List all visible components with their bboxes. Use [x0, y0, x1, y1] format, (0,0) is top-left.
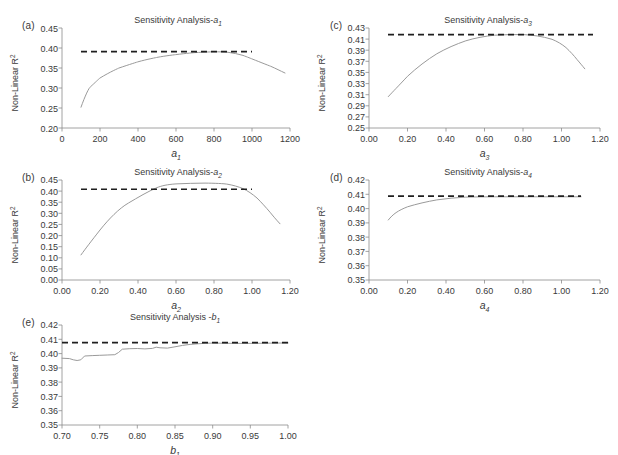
panel-c-x-tick-labels: 0.00 0.20 0.40 0.60 0.80 1.00 1.20	[360, 134, 609, 144]
y-tick-label: 0.36	[347, 261, 365, 271]
y-tick-label: 0.20	[40, 231, 58, 241]
y-tick-label: 0.41	[40, 335, 58, 345]
panel-d-ylabel: Non-Linear R2	[316, 206, 328, 264]
panel-c-series-curve	[388, 35, 585, 97]
y-tick-label: 0.41	[347, 35, 365, 45]
panel-d-chart: Sensitivity Analysis-a4 Non-Linear R2 0.…	[308, 160, 618, 310]
panel-b-series-curve	[81, 183, 280, 255]
y-tick-label: 0.25	[40, 104, 58, 114]
x-tick-label: 1.00	[279, 431, 297, 441]
y-tick-label: 0.31	[347, 90, 365, 100]
x-tick-label: 1.20	[281, 286, 299, 296]
y-tick-label: 0.10	[40, 253, 58, 263]
x-tick-label: 1.20	[591, 286, 609, 296]
y-tick-label: 0.20	[40, 124, 58, 134]
x-tick-label: 0.00	[53, 286, 71, 296]
y-tick-label: 0.30	[40, 209, 58, 219]
panel-b-x-tick-labels: 0.00 0.20 0.40 0.60 0.80 1.00 1.20	[53, 286, 299, 296]
panel-b: (b) Sensitivity Analysis-a2 Non-Linear R…	[0, 160, 310, 310]
y-tick-label: 0.45	[40, 24, 58, 34]
y-tick-label: 0.42	[40, 320, 58, 330]
y-tick-label: 0.37	[347, 57, 365, 67]
x-tick-label: 1.00	[243, 286, 261, 296]
panel-b-tag: (b)	[22, 172, 35, 183]
panel-e-y-tick-labels: 0.35 0.36 0.37 0.38 0.39 0.40 0.41 0.42	[40, 320, 58, 430]
panel-b-axes	[59, 180, 291, 284]
panel-c-y-tick-labels: 0.25 0.27 0.29 0.31 0.33 0.35 0.37 0.39 …	[347, 23, 365, 133]
panel-e-series-curve	[62, 343, 288, 361]
x-tick-label: 0.20	[399, 134, 417, 144]
panel-c-ylabel: Non-Linear R2	[316, 54, 328, 112]
x-tick-label: 400	[130, 134, 145, 144]
y-tick-label: 0.05	[40, 264, 58, 274]
x-tick-label: 0.20	[399, 286, 417, 296]
panel-c-chart: Sensitivity Analysis-a3 Non-Linear R2 0.…	[308, 8, 618, 158]
y-tick-label: 0.39	[347, 218, 365, 228]
y-tick-label: 0.30	[40, 84, 58, 94]
panel-c-title: Sensitivity Analysis-a3	[444, 15, 532, 27]
x-tick-label: 1.00	[553, 134, 571, 144]
panel-e-chart: Sensitivity Analysis -b1 Non-Linear R2 0…	[0, 305, 330, 455]
panel-d-tag: (d)	[330, 172, 343, 183]
panel-c-tag: (c)	[330, 20, 342, 31]
panel-a-ylabel-main: Non-Linear R	[10, 58, 20, 112]
x-tick-label: 0.70	[53, 431, 71, 441]
panel-a-axes	[59, 28, 291, 132]
panel-c-axes	[366, 28, 601, 132]
x-tick-label: 0.90	[204, 431, 222, 441]
panel-a-title: Sensitivity Analysis-a1	[134, 15, 222, 27]
panel-c: (c) Sensitivity Analysis-a3 Non-Linear R…	[308, 8, 618, 158]
panel-a-tag: (a)	[22, 20, 35, 31]
panel-e-tag: (e)	[22, 317, 35, 328]
x-tick-label: 0.40	[437, 286, 455, 296]
y-tick-label: 0.38	[347, 233, 365, 243]
panel-e-title: Sensitivity Analysis -b1	[130, 312, 221, 324]
panel-a-y-tick-labels: 0.20 0.25 0.30 0.35 0.40 0.45	[40, 24, 58, 134]
y-tick-label: 0.35	[347, 68, 365, 78]
panel-a: (a) Sensitivity Analysis-a1 Non-Linear R…	[0, 8, 310, 158]
y-tick-label: 0.33	[347, 79, 365, 89]
y-tick-label: 0.41	[347, 190, 365, 200]
panel-a-xlabel: a1	[171, 147, 181, 161]
y-tick-label: 0.40	[347, 204, 365, 214]
panel-a-x-tick-labels: 0 200 400 600 800 1000 1200	[59, 134, 300, 144]
panel-b-y-tick-labels: 0.00 0.05 0.10 0.15 0.20 0.25 0.30 0.35 …	[40, 175, 58, 285]
x-tick-label: 1.00	[553, 286, 571, 296]
panel-d-title: Sensitivity Analysis-a4	[444, 167, 532, 179]
x-tick-label: 0.80	[205, 286, 223, 296]
y-tick-label: 0.40	[40, 349, 58, 359]
panel-a-ylabel: Non-Linear R2	[9, 54, 21, 112]
x-tick-label: 0.20	[91, 286, 109, 296]
y-tick-label: 0.35	[40, 420, 58, 430]
panel-e-axes	[59, 325, 289, 429]
x-tick-label: 0	[59, 134, 64, 144]
x-tick-label: 0.40	[129, 286, 147, 296]
panel-b-ylabel: Non-Linear R2	[9, 206, 21, 264]
y-tick-label: 0.42	[347, 175, 365, 185]
x-tick-label: 1200	[280, 134, 300, 144]
x-tick-label: 0.75	[91, 431, 109, 441]
y-tick-label: 0.27	[347, 112, 365, 122]
panel-d-y-tick-labels: 0.35 0.36 0.37 0.38 0.39 0.40 0.41 0.42	[347, 175, 365, 285]
y-tick-label: 0.36	[40, 406, 58, 416]
y-tick-label: 0.45	[40, 175, 58, 185]
panel-b-title: Sensitivity Analysis-a2	[134, 167, 222, 179]
x-tick-label: 0.00	[360, 134, 378, 144]
x-tick-label: 0.40	[437, 134, 455, 144]
panel-e-ylabel: Non-Linear R2	[9, 351, 21, 409]
y-tick-label: 0.35	[347, 275, 365, 285]
panel-e-x-tick-labels: 0.70 0.75 0.80 0.85 0.90 0.95 1.00	[53, 431, 297, 441]
panel-d-xlabel: a4	[480, 299, 490, 313]
panel-a-title-sub: 1	[218, 20, 222, 27]
panel-d: (d) Sensitivity Analysis-a4 Non-Linear R…	[308, 160, 618, 310]
x-tick-label: 0.80	[129, 431, 147, 441]
x-tick-label: 0.85	[166, 431, 184, 441]
x-tick-label: 0.60	[476, 134, 494, 144]
x-tick-label: 1.20	[591, 134, 609, 144]
x-tick-label: 1000	[242, 134, 262, 144]
y-tick-label: 0.43	[347, 23, 365, 33]
panel-c-xlabel: a3	[480, 147, 490, 161]
panel-a-chart: Sensitivity Analysis-a1 Non-Linear R2 0.…	[0, 8, 310, 158]
y-tick-label: 0.38	[40, 378, 58, 388]
